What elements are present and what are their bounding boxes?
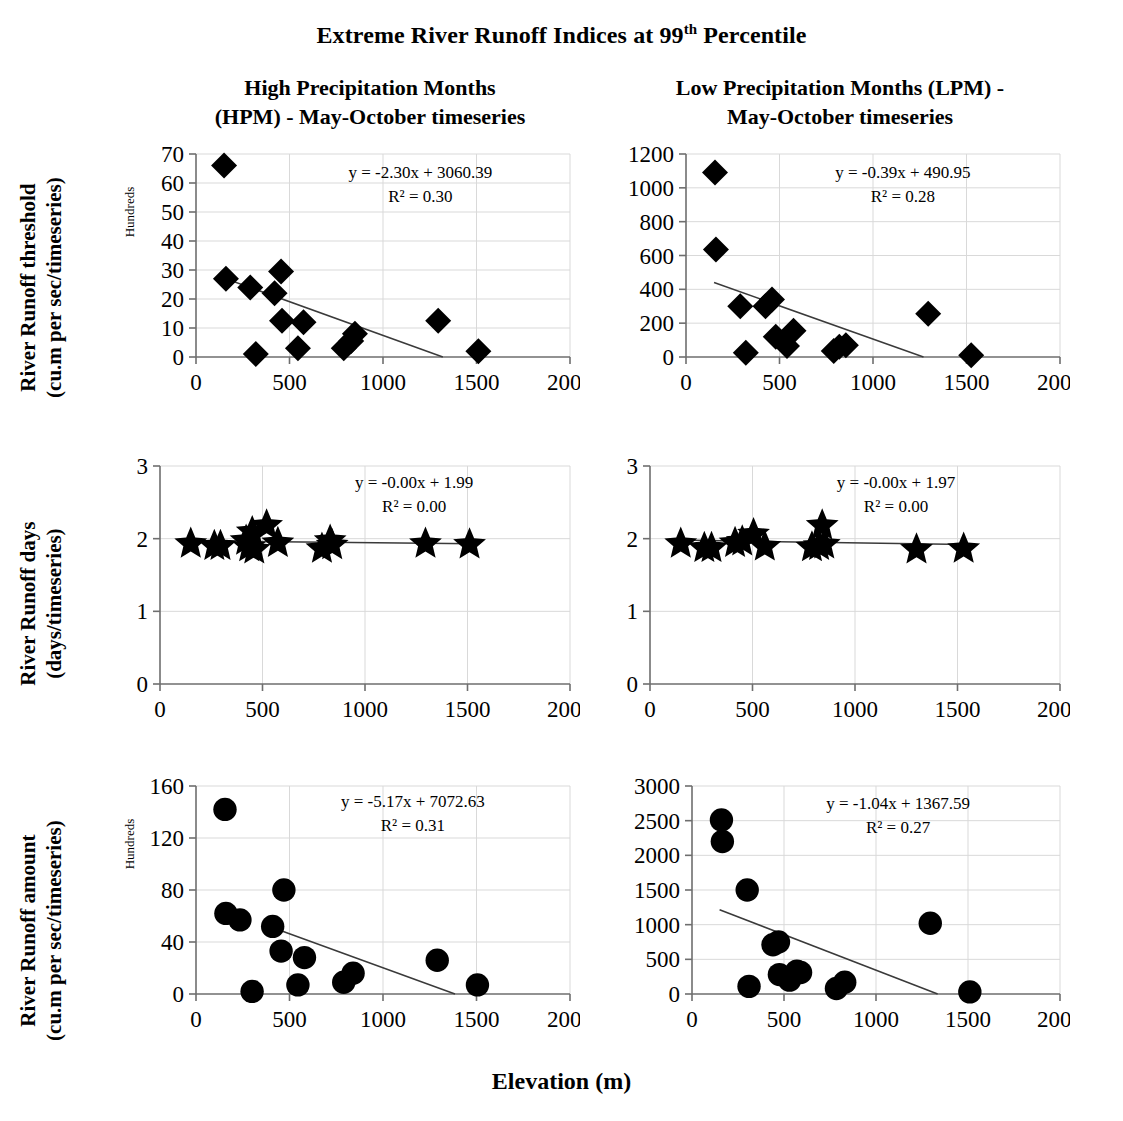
- data-point: [426, 949, 449, 972]
- y-tick-label: 30: [161, 258, 184, 283]
- r-squared-label: R² = 0.30: [388, 187, 452, 206]
- data-point: [243, 341, 269, 367]
- y-tick-label: 0: [173, 345, 185, 370]
- data-point: [737, 975, 760, 998]
- x-tick-label: 500: [245, 697, 280, 722]
- row-label-threshold-line2: (cu.m per sec/timeseries): [42, 163, 68, 413]
- x-tick-label: 1500: [944, 370, 990, 395]
- y-tick-label: 20: [161, 287, 184, 312]
- chart-panel-lpm-days: 01230500100015002000y = -0.00x + 1.97R² …: [600, 452, 1070, 732]
- chart-svg-lpm-amount: 0500100015002000250030000500100015002000…: [600, 772, 1070, 1042]
- data-point: [237, 274, 263, 300]
- y-tick-label: 70: [161, 142, 184, 167]
- y-tick-label: 3: [627, 454, 639, 479]
- chart-panel-lpm-amount: 0500100015002000250030000500100015002000…: [600, 772, 1070, 1042]
- x-axis-label: Elevation (m): [0, 1068, 1123, 1095]
- x-tick-label: 2000: [547, 1007, 580, 1032]
- chart-panel-hpm-amount: 040801201600500100015002000Hundredsy = -…: [110, 772, 580, 1042]
- row-label-runoff-amount: River Runoff amount (cu.m per sec/timese…: [16, 806, 67, 1056]
- y-tick-label: 2000: [634, 843, 680, 868]
- x-tick-label: 0: [190, 370, 202, 395]
- y-tick-label: 0: [137, 672, 149, 697]
- data-point: [268, 258, 294, 284]
- data-point: [958, 342, 984, 368]
- data-point: [710, 808, 733, 831]
- x-tick-label: 2000: [547, 697, 580, 722]
- data-point: [228, 908, 251, 931]
- trendline-equation: y = -5.17x + 7072.63: [341, 792, 485, 811]
- y-tick-label: 800: [640, 210, 675, 235]
- x-tick-label: 500: [735, 697, 770, 722]
- y-tick-label: 0: [669, 982, 681, 1007]
- y-tick-label: 1000: [634, 913, 680, 938]
- x-tick-label: 1000: [853, 1007, 899, 1032]
- y-tick-label: 1: [137, 599, 149, 624]
- data-point: [261, 915, 284, 938]
- data-point: [767, 930, 790, 953]
- y-tick-label: 500: [646, 947, 681, 972]
- data-point: [291, 309, 317, 335]
- x-tick-label: 1000: [360, 1007, 406, 1032]
- y-tick-label: 0: [663, 345, 675, 370]
- data-point: [833, 971, 856, 994]
- y-tick-label: 40: [161, 229, 184, 254]
- data-point: [453, 527, 486, 558]
- trendline-equation: y = -2.30x + 3060.39: [348, 163, 492, 182]
- y-tick-label: 160: [150, 774, 185, 799]
- data-point: [947, 532, 980, 563]
- x-tick-label: 0: [680, 370, 692, 395]
- x-tick-label: 2000: [547, 370, 580, 395]
- x-tick-label: 1500: [454, 1007, 500, 1032]
- row-label-threshold-line1: River Runoff threshold: [16, 184, 40, 392]
- y-tick-label: 2: [627, 527, 639, 552]
- data-point: [272, 878, 295, 901]
- data-point: [711, 830, 734, 853]
- column-title-hpm-line2: (HPM) - May-October timeseries: [215, 104, 526, 129]
- data-point: [262, 280, 288, 306]
- y-tick-label: 120: [150, 826, 185, 851]
- y-axis-units-note: Hundreds: [122, 187, 137, 238]
- chart-panel-hpm-threshold: 0102030405060700500100015002000Hundredsy…: [110, 140, 580, 405]
- y-tick-label: 1200: [628, 142, 674, 167]
- x-tick-label: 1500: [935, 697, 981, 722]
- y-tick-label: 200: [640, 311, 675, 336]
- x-tick-label: 1500: [445, 697, 491, 722]
- r-squared-label: R² = 0.28: [871, 187, 935, 206]
- data-point: [293, 946, 316, 969]
- y-tick-label: 3000: [634, 774, 680, 799]
- y-tick-label: 2: [137, 527, 149, 552]
- figure-title: Extreme River Runoff Indices at 99th Per…: [0, 22, 1123, 49]
- figure-title-main: Extreme River Runoff Indices at 99: [317, 22, 684, 48]
- data-point: [958, 980, 981, 1003]
- y-tick-label: 60: [161, 171, 184, 196]
- r-squared-label: R² = 0.00: [864, 497, 928, 516]
- x-tick-label: 2000: [1037, 697, 1070, 722]
- x-tick-label: 1500: [945, 1007, 991, 1032]
- r-squared-label: R² = 0.27: [866, 818, 931, 837]
- trendline-equation: y = -0.00x + 1.97: [837, 473, 956, 492]
- trendline-equation: y = -1.04x + 1367.59: [826, 794, 970, 813]
- y-tick-label: 3: [137, 454, 149, 479]
- data-point: [702, 160, 728, 186]
- y-tick-label: 1000: [628, 176, 674, 201]
- data-point: [211, 153, 237, 179]
- chart-panel-hpm-days: 01230500100015002000y = -0.00x + 1.99R² …: [110, 452, 580, 732]
- data-point: [733, 340, 759, 366]
- data-point: [269, 939, 292, 962]
- chart-svg-hpm-days: 01230500100015002000y = -0.00x + 1.99R² …: [110, 452, 580, 732]
- x-tick-label: 0: [686, 1007, 698, 1032]
- data-point: [240, 980, 263, 1003]
- data-point: [703, 237, 729, 263]
- x-tick-label: 1000: [832, 697, 878, 722]
- y-tick-label: 40: [161, 930, 184, 955]
- y-axis-units-note: Hundreds: [122, 819, 137, 870]
- y-tick-label: 2500: [634, 809, 680, 834]
- trendline-equation: y = -0.00x + 1.99: [355, 473, 473, 492]
- row-label-amount-line1: River Runoff amount: [16, 835, 40, 1027]
- y-tick-label: 1500: [634, 878, 680, 903]
- data-point: [409, 527, 442, 558]
- y-tick-label: 600: [640, 244, 675, 269]
- row-label-runoff-days: River Runoff days (days/timeseries): [16, 479, 67, 729]
- y-tick-label: 80: [161, 878, 184, 903]
- column-title-lpm-line1: Low Precipitation Months (LPM) -: [676, 75, 1004, 100]
